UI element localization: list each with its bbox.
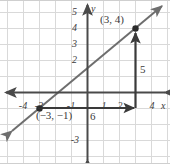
x-tick-label-neg4: -4 — [19, 101, 27, 111]
y-tick-label-5: 5 — [72, 7, 77, 17]
y-axis-label: y — [91, 4, 95, 14]
annotation-layer — [0, 0, 170, 164]
coordinate-graph-figure: 5 4 3 2 -3 -4 -3 -1 1 2 4 y x (3, 4) (−3… — [0, 0, 170, 164]
y-tick-label-neg3: -3 — [71, 135, 79, 145]
y-tick-label-2: 2 — [72, 55, 77, 65]
y-tick-label-4: 4 — [72, 23, 77, 33]
frame-top-edge — [0, 0, 170, 1]
x-tick-label-1: 1 — [102, 101, 107, 111]
x-tick-label-4: 4 — [150, 101, 155, 111]
x-tick-label-2: 2 — [118, 101, 123, 111]
y-tick-label-3: 3 — [72, 39, 77, 49]
frame-bottom-edge — [0, 163, 170, 164]
point-marker-upper — [132, 25, 138, 31]
x-axis-label: x — [161, 101, 165, 111]
rise-label: 5 — [140, 64, 146, 75]
run-label: 6 — [90, 111, 96, 122]
point-label-lower: (−3, −1) — [36, 110, 72, 121]
point-label-upper: (3, 4) — [100, 14, 124, 25]
